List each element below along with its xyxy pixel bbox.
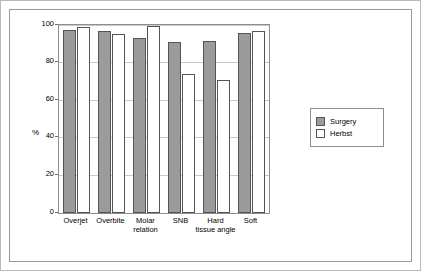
- y-tick-mark: [55, 174, 58, 175]
- bar-herbst-4: [217, 80, 230, 213]
- y-tick-label: 80: [28, 57, 54, 65]
- bar-herbst-2: [147, 26, 160, 213]
- plot-area: [58, 24, 270, 214]
- legend-item-herbst: Herbst: [316, 129, 378, 138]
- bar-herbst-0: [77, 27, 90, 213]
- y-tick-label: 100: [28, 20, 54, 28]
- gridline: [59, 25, 269, 26]
- legend-label-herbst: Herbst: [330, 129, 352, 138]
- chart-figure: % Surgery Herbst 020406080100OverjetOver…: [0, 0, 421, 271]
- y-tick-label: 0: [28, 208, 54, 216]
- x-tick-label-5: Soft: [221, 216, 281, 225]
- bar-surgery-4: [203, 41, 216, 213]
- x-tick-label-line: relation: [116, 225, 176, 234]
- y-tick-mark: [55, 99, 58, 100]
- legend-item-surgery: Surgery: [316, 117, 378, 126]
- bar-surgery-3: [168, 42, 181, 213]
- bar-surgery-1: [98, 31, 111, 213]
- x-tick-label-line: Soft: [221, 216, 281, 225]
- y-tick-mark: [55, 136, 58, 137]
- bar-surgery-2: [133, 38, 146, 213]
- legend-swatch-herbst: [316, 129, 325, 138]
- bar-herbst-3: [182, 74, 195, 213]
- x-tick-label-line: tissue angle: [186, 225, 246, 234]
- bar-surgery-0: [63, 30, 76, 213]
- plot-canvas: [59, 25, 269, 213]
- legend-label-surgery: Surgery: [330, 117, 356, 126]
- y-tick-mark: [55, 212, 58, 213]
- y-tick-mark: [55, 61, 58, 62]
- legend-swatch-surgery: [316, 117, 325, 126]
- y-tick-label: 60: [28, 95, 54, 103]
- y-tick-label: 40: [28, 132, 54, 140]
- y-tick-label: 20: [28, 170, 54, 178]
- bar-herbst-5: [252, 31, 265, 213]
- bar-herbst-1: [112, 34, 125, 213]
- chart-inner-border: % Surgery Herbst 020406080100OverjetOver…: [9, 9, 412, 262]
- bar-surgery-5: [238, 33, 251, 213]
- y-tick-mark: [55, 24, 58, 25]
- chart-legend: Surgery Herbst: [310, 108, 384, 147]
